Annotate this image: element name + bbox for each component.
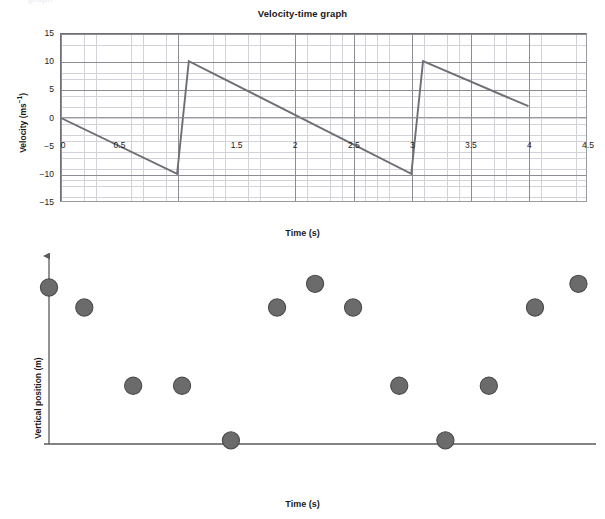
- chart2-marker: [526, 299, 543, 316]
- chart2-marker-group: [40, 275, 587, 449]
- chart1-ytick-neg15: −15: [20, 197, 54, 207]
- chart1-y-axis-title-exponent: −1: [16, 96, 23, 103]
- velocity-time-chart: Velocity-time graph 15 10 5 0 −5 −10 −15…: [0, 0, 605, 248]
- chart2-y-axis-title: Vertical position (m): [33, 318, 43, 478]
- chart2-marker: [306, 275, 323, 292]
- page-root: graph Velocity-time graph 15 10 5 0 −5 −…: [0, 0, 605, 519]
- chart1-xtick-2p5: 2.5: [348, 140, 360, 150]
- chart1-xtick-4p5: 4.5: [582, 140, 594, 150]
- vertical-position-scatter-chart: Vertical position (m) Time (s): [0, 248, 605, 519]
- chart1-y-axis-title-main: Velocity (ms: [18, 103, 28, 153]
- chart1-x-axis-title: Time (s): [0, 228, 605, 238]
- chart1-xtick-3p5: 3.5: [465, 140, 477, 150]
- chart2-x-axis-title: Time (s): [0, 499, 605, 509]
- chart2-plot: [0, 248, 605, 519]
- chart2-marker: [76, 299, 93, 316]
- chart2-marker: [480, 377, 497, 394]
- chart1-ytick-15: 15: [20, 28, 54, 38]
- chart2-marker: [437, 432, 454, 449]
- chart2-marker: [344, 299, 361, 316]
- chart2-marker: [173, 377, 190, 394]
- chart2-marker: [125, 377, 142, 394]
- chart1-y-axis-title: Velocity (ms−1): [16, 63, 28, 183]
- chart2-marker: [391, 377, 408, 394]
- chart1-xtick-1p5: 1.5: [231, 140, 243, 150]
- chart1-xtick-0: 0: [61, 140, 66, 150]
- chart2-marker: [222, 432, 239, 449]
- chart1-y-axis-title-close: ): [18, 93, 28, 96]
- chart2-marker: [40, 279, 57, 296]
- chart1-title: Velocity-time graph: [0, 8, 605, 19]
- chart1-xtick-2: 2: [293, 140, 298, 150]
- chart1-xtick-3: 3: [410, 140, 415, 150]
- chart2-marker: [570, 275, 587, 292]
- chart1-xtick-0p5: 0.5: [114, 140, 126, 150]
- chart1-data-line: [60, 33, 587, 202]
- chart2-marker: [268, 299, 285, 316]
- chart1-xtick-4: 4: [527, 140, 532, 150]
